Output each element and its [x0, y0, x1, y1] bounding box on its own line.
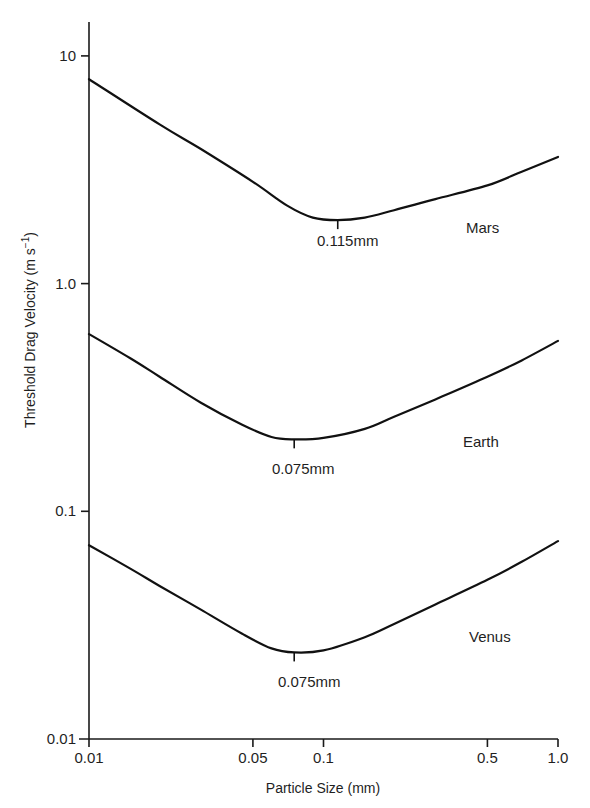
- x-tick-label: 0.05: [238, 749, 267, 766]
- y-axis-title-main: Threshold Drag Velocity (m s: [22, 248, 38, 428]
- series-label-venus: Venus: [469, 628, 511, 645]
- series-label-mars: Mars: [466, 219, 499, 236]
- series-curves: [89, 79, 558, 661]
- x-axis-ticks: 0.010.050.10.51.0: [74, 739, 568, 766]
- minimum-label-mars: 0.115mm: [317, 232, 378, 249]
- y-axis-title-superscript: −1: [20, 236, 31, 248]
- y-axis-title: Threshold Drag Velocity (m s−1): [20, 232, 38, 428]
- x-tick-label: 1.0: [548, 749, 569, 766]
- threshold-velocity-chart: 101.00.10.01 0.010.050.10.51.0 Mars0.115…: [0, 0, 590, 808]
- series-label-earth: Earth: [463, 433, 499, 450]
- y-axis-title-close: ): [22, 232, 38, 237]
- curve-earth: [89, 334, 558, 439]
- y-tick-label: 0.01: [47, 730, 76, 747]
- x-tick-label: 0.5: [477, 749, 498, 766]
- x-tick-label: 0.1: [313, 749, 334, 766]
- x-axis-title: Particle Size (mm): [266, 780, 380, 796]
- minimum-label-earth: 0.075mm: [272, 460, 335, 477]
- y-tick-label: 10: [59, 47, 76, 64]
- curve-mars: [89, 79, 558, 220]
- x-tick-label: 0.01: [74, 749, 103, 766]
- y-tick-label: 1.0: [55, 275, 76, 292]
- minimum-label-venus: 0.075mm: [278, 673, 341, 690]
- y-tick-label: 0.1: [55, 502, 76, 519]
- series-labels: Mars0.115mmEarth0.075mmVenus0.075mm: [272, 219, 511, 690]
- y-axis-ticks: 101.00.10.01: [47, 47, 89, 747]
